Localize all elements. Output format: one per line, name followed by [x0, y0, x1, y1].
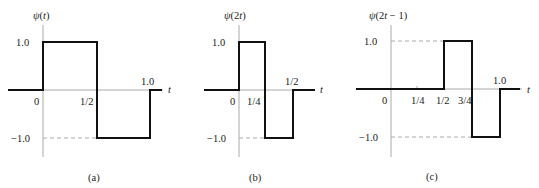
panel-c: ψ(2t − 1) t 1.0 −1.0 0 1/4 1/2 3/4 1.0 (…: [356, 10, 531, 183]
caption-c: (c): [426, 171, 438, 183]
y-tick-neg: −1.0: [359, 132, 378, 143]
y-axis-label: ψ(2t − 1): [369, 10, 408, 22]
panel-b: ψ(2t) t 1.0 −1.0 0 1/4 1/2 (b): [204, 10, 324, 184]
panel-a: ψ(t) t 1.0 −1.0 0 1/2 1.0 (a): [8, 10, 172, 184]
caption-a: (a): [88, 172, 100, 184]
x-tick-1: 1.0: [493, 75, 506, 86]
x-tick-half: 1/2: [80, 96, 93, 107]
y-tick-pos: 1.0: [16, 37, 29, 48]
t-axis-label: t: [168, 84, 172, 95]
y-tick-pos: 1.0: [212, 37, 225, 48]
x-tick-quarter: 1/4: [247, 96, 261, 107]
x-tick-half: 1/2: [436, 95, 449, 106]
t-axis-label: t: [320, 84, 324, 95]
y-axis-label: ψ(t): [33, 10, 50, 22]
caption-b: (b): [249, 172, 262, 184]
y-tick-neg: −1.0: [11, 133, 30, 144]
x-tick-0: 0: [382, 95, 387, 106]
x-tick-1: 1.0: [141, 76, 154, 87]
y-tick-pos: 1.0: [364, 36, 377, 47]
x-tick-half: 1/2: [285, 76, 298, 87]
haar-wavelet-figure: ψ(t) t 1.0 −1.0 0 1/2 1.0 (a) ψ(2t) t 1.…: [0, 0, 539, 188]
y-axis-label: ψ(2t): [224, 10, 246, 22]
x-tick-0: 0: [34, 96, 39, 107]
x-tick-3q: 3/4: [458, 95, 472, 106]
x-tick-0: 0: [230, 96, 235, 107]
y-tick-neg: −1.0: [207, 133, 226, 144]
x-tick-quarter: 1/4: [411, 95, 425, 106]
t-axis-label: t: [527, 84, 531, 95]
